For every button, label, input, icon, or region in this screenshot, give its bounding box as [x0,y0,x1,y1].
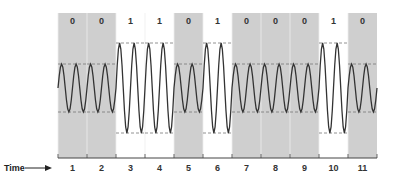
slot-number: 2 [99,163,104,173]
bit-label: 1 [128,16,133,26]
slot-number: 10 [328,163,338,173]
bit-label: 0 [186,16,191,26]
slot-number: 8 [273,163,278,173]
bit-label: 0 [99,16,104,26]
slot-number: 5 [186,163,191,173]
slot-number: 6 [215,163,220,173]
bit-label: 1 [331,16,336,26]
bit-label: 1 [215,16,220,26]
slot-number-labels: 1234567891011 [70,163,367,173]
slot-number: 9 [302,163,307,173]
slot-number: 3 [128,163,133,173]
bit-label: 0 [70,16,75,26]
slot-number: 1 [70,163,75,173]
bit-label: 0 [302,16,307,26]
bit-label: 1 [157,16,162,26]
slot-number: 4 [157,163,162,173]
arrow-right-icon [45,165,52,171]
bit-label: 0 [244,16,249,26]
time-axis-label-group: Time [4,163,52,173]
bit-label: 0 [360,16,365,26]
slot-number: 11 [358,163,368,173]
bit-label: 0 [273,16,278,26]
ask-signal-diagram: 00110100010 1234567891011 Time [0,0,398,179]
time-axis-label: Time [4,163,25,173]
slot-number: 7 [244,163,249,173]
